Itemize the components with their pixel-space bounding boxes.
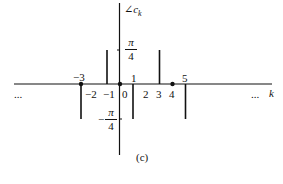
ytick-neg-pi-denominator: 4 bbox=[105, 120, 117, 132]
dot-k-4 bbox=[170, 82, 174, 86]
ytick-neg-sign: − bbox=[98, 114, 104, 125]
y-axis-label-text: ∠c bbox=[124, 3, 138, 15]
xtick-0: 0 bbox=[122, 89, 128, 100]
xtick-1: 1 bbox=[131, 73, 137, 84]
ellipsis-left: ... bbox=[14, 89, 22, 100]
ytick-neg-pi-numerator: π bbox=[105, 107, 117, 120]
xtick-neg2: −2 bbox=[85, 89, 97, 100]
ytick-neg-pi-over-4: π 4 bbox=[105, 107, 117, 132]
y-axis-label-subscript: k bbox=[138, 9, 142, 18]
xtick-5: 5 bbox=[182, 73, 188, 84]
ytick-pi-numerator: π bbox=[125, 37, 137, 50]
ytick-pi-denominator: 4 bbox=[125, 50, 137, 62]
x-axis-label: k bbox=[269, 88, 274, 99]
dot-k-0 bbox=[118, 82, 122, 86]
ytick-pi-over-4: π 4 bbox=[125, 37, 137, 62]
ellipsis-right: ... bbox=[251, 89, 259, 100]
figure-caption: (c) bbox=[136, 152, 148, 163]
xtick-4: 4 bbox=[169, 89, 175, 100]
xtick-neg1: −1 bbox=[103, 89, 115, 100]
xtick-neg3: −3 bbox=[73, 72, 85, 83]
xtick-3: 3 bbox=[156, 89, 162, 100]
y-axis-label: ∠ck bbox=[124, 4, 142, 19]
xtick-2: 2 bbox=[143, 89, 149, 100]
